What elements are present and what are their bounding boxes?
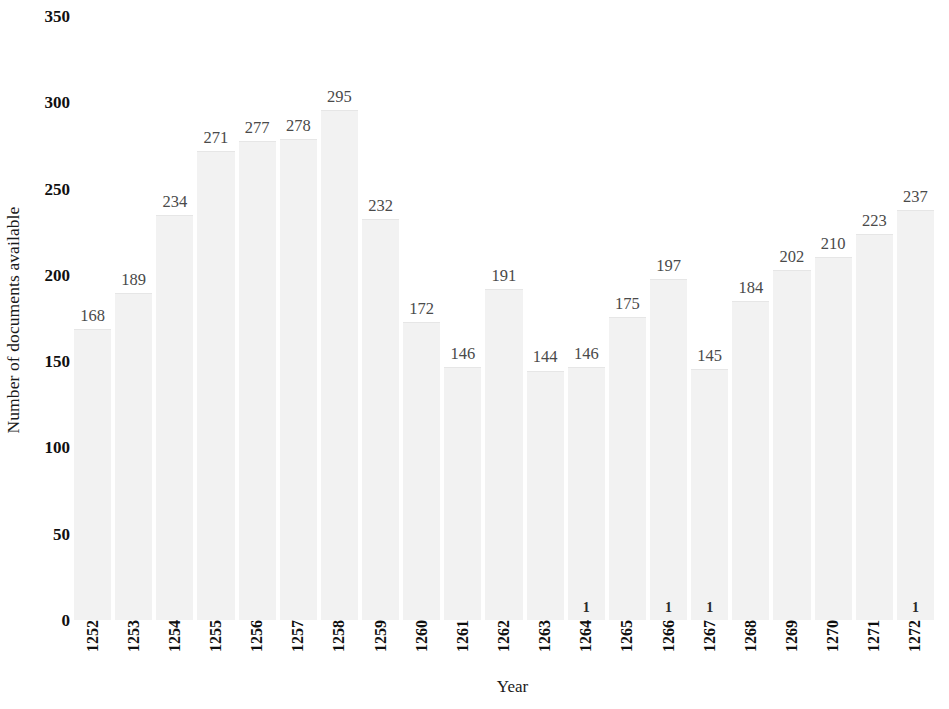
x-axis-tick-wrap: 1252 — [72, 661, 113, 662]
x-axis-tick-label: 1259 — [373, 620, 389, 652]
bar[interactable] — [568, 367, 605, 620]
bar-group: 14611264 — [566, 0, 607, 709]
bar-series: 1681252189125323412542711255277125627812… — [72, 0, 936, 709]
baseline-marker: 1 — [648, 601, 689, 615]
x-axis-tick-wrap: 1261 — [442, 661, 483, 662]
bar-group: 1681252 — [72, 0, 113, 709]
y-axis-tick-labels: 050100150200250300350 — [22, 0, 70, 709]
x-axis-tick-wrap: 1270 — [813, 661, 854, 662]
x-axis-tick-wrap: 1267 — [689, 661, 730, 662]
bar[interactable] — [609, 317, 646, 620]
baseline-marker: 1 — [566, 601, 607, 615]
x-axis-tick-wrap: 1266 — [648, 661, 689, 662]
plot-area: 1681252189125323412542711255277125627812… — [72, 0, 936, 709]
y-axis-tick-label: 100 — [22, 439, 70, 456]
x-axis-tick-wrap: 1264 — [566, 661, 607, 662]
x-axis-tick-label: 1258 — [331, 620, 347, 652]
x-axis-tick-wrap: 1265 — [607, 661, 648, 662]
bar[interactable] — [773, 270, 810, 620]
x-axis-tick-wrap: 1258 — [319, 661, 360, 662]
x-axis-tick-wrap: 1256 — [237, 661, 278, 662]
y-axis-tick-label: 0 — [22, 612, 70, 629]
bar-group: 2321259 — [360, 0, 401, 709]
x-axis-tick-wrap: 1257 — [278, 661, 319, 662]
x-axis-tick-wrap: 1254 — [154, 661, 195, 662]
x-axis-tick-label: 1268 — [743, 620, 759, 652]
baseline-marker: 1 — [689, 601, 730, 615]
x-axis-tick-wrap: 1255 — [195, 661, 236, 662]
x-axis-tick-label: 1264 — [578, 620, 594, 652]
bar[interactable] — [239, 141, 276, 620]
bar-value-label: 237 — [881, 189, 949, 206]
bar[interactable] — [321, 110, 358, 620]
bar[interactable] — [897, 210, 934, 620]
x-axis-tick-label: 1262 — [496, 620, 512, 652]
bar-group: 2711255 — [195, 0, 236, 709]
x-axis-title-label: Year — [497, 678, 528, 695]
bar[interactable] — [403, 322, 440, 620]
bar[interactable] — [115, 293, 152, 620]
bar-group: 14511267 — [689, 0, 730, 709]
bar[interactable] — [74, 329, 111, 620]
x-axis-tick-label: 1266 — [661, 620, 677, 652]
bar-group: 1461261 — [442, 0, 483, 709]
x-axis-tick-wrap: 1272 — [895, 661, 936, 662]
bar-group: 1751265 — [607, 0, 648, 709]
bar[interactable] — [691, 369, 728, 620]
baseline-marker: 1 — [895, 601, 936, 615]
bar[interactable] — [856, 234, 893, 620]
x-axis-tick-label: 1267 — [702, 620, 718, 652]
bar-group: 2101270 — [813, 0, 854, 709]
x-axis-tick-label: 1265 — [619, 620, 635, 652]
x-axis-tick-wrap: 1259 — [360, 661, 401, 662]
x-axis-tick-label: 1253 — [126, 620, 142, 652]
bar[interactable] — [362, 219, 399, 620]
bar[interactable] — [156, 215, 193, 620]
bar[interactable] — [815, 257, 852, 620]
bar-group: 2021269 — [771, 0, 812, 709]
bar-group: 2341254 — [154, 0, 195, 709]
bar[interactable] — [650, 279, 687, 620]
x-axis-tick-wrap: 1268 — [730, 661, 771, 662]
x-axis-tick-label: 1263 — [537, 620, 553, 652]
x-axis-tick-label: 1270 — [825, 620, 841, 652]
x-axis-tick-wrap: 1263 — [525, 661, 566, 662]
y-axis-tick-label: 250 — [22, 180, 70, 197]
bar-group: 1891253 — [113, 0, 154, 709]
bar-group: 2231271 — [854, 0, 895, 709]
bar[interactable] — [527, 371, 564, 621]
bar[interactable] — [485, 289, 522, 620]
x-axis-tick-wrap: 1269 — [771, 661, 812, 662]
x-axis-title: Year — [0, 678, 949, 695]
bar[interactable] — [280, 139, 317, 620]
x-axis-tick-label: 1254 — [167, 620, 183, 652]
x-axis-tick-wrap: 1262 — [483, 661, 524, 662]
bar-group: 2771256 — [237, 0, 278, 709]
bar[interactable] — [444, 367, 481, 620]
y-axis-tick-label: 50 — [22, 525, 70, 542]
x-axis-tick-label: 1271 — [866, 620, 882, 652]
x-axis-tick-wrap: 1253 — [113, 661, 154, 662]
x-axis-tick-label: 1256 — [249, 620, 265, 652]
bar[interactable] — [197, 151, 234, 620]
x-axis-tick-label: 1257 — [290, 620, 306, 652]
y-axis-tick-label: 150 — [22, 353, 70, 370]
x-axis-tick-label: 1261 — [455, 620, 471, 652]
bar-group: 1841268 — [730, 0, 771, 709]
x-axis-tick-wrap: 1271 — [854, 661, 895, 662]
bar-chart-figure: Number of documents available 0501001502… — [0, 0, 949, 709]
bar-group: 2781257 — [278, 0, 319, 709]
y-axis-tick-label: 200 — [22, 266, 70, 283]
bar-group: 2951258 — [319, 0, 360, 709]
x-axis-tick-label: 1255 — [208, 620, 224, 652]
x-axis-tick-label: 1260 — [414, 620, 430, 652]
y-axis-tick-label: 350 — [22, 8, 70, 25]
x-axis-tick-label: 1272 — [907, 620, 923, 652]
x-axis-tick-label: 1252 — [85, 620, 101, 652]
y-axis-tick-label: 300 — [22, 94, 70, 111]
x-axis-tick-wrap: 1260 — [401, 661, 442, 662]
bar[interactable] — [732, 301, 769, 620]
bar-group: 23711272 — [895, 0, 936, 709]
x-axis-tick-label: 1269 — [784, 620, 800, 652]
